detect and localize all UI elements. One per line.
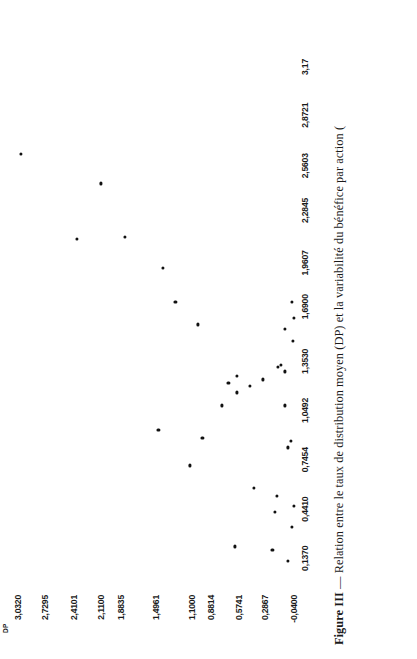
- figure-caption-text: Relation entre le taux de distribution m…: [332, 126, 346, 573]
- x-axis-tick-label: 0,4410: [300, 497, 310, 522]
- figure-caption-dash: [332, 589, 346, 592]
- scatter-point: [292, 339, 295, 342]
- figure-caption: Figure III — Relation entre le taux de d…: [332, 5, 347, 645]
- y-axis-tick-label: 2,1100: [96, 595, 106, 659]
- scatter-point: [292, 317, 295, 320]
- scatter-point: [283, 404, 286, 407]
- scatter-point: [274, 511, 277, 514]
- scatter-point: [279, 363, 282, 366]
- figure-caption-em-dash: —: [332, 576, 346, 588]
- y-axis-tick-label: 0,8814: [206, 595, 216, 659]
- scatter-point: [248, 385, 251, 388]
- y-axis-tick-label: 0,2867: [260, 595, 270, 659]
- x-axis-tick-label: 3,17: [300, 59, 310, 75]
- scatter-point: [283, 328, 286, 331]
- scatter-point: [19, 153, 22, 156]
- scatter-point: [286, 560, 289, 563]
- scatter-point: [235, 391, 238, 394]
- scatter-point: [201, 436, 204, 439]
- scatter-point: [290, 440, 293, 443]
- y-axis-tick-label: 2,4101: [69, 595, 79, 659]
- scatter-point: [291, 525, 294, 528]
- scatter-point: [261, 378, 264, 381]
- scatter-point: [227, 381, 230, 384]
- y-axis-tick-label: 0,5741: [234, 595, 244, 659]
- y-axis-tick-label: 2,7295: [40, 595, 50, 659]
- y-axis-tick-label: 1,8835: [116, 595, 126, 659]
- scatter-point: [286, 446, 289, 449]
- scatter-point: [235, 375, 238, 378]
- scatter-point: [221, 404, 224, 407]
- scatter-point: [157, 428, 160, 431]
- scatter-point: [196, 323, 199, 326]
- scatter-plot-area: [18, 67, 294, 587]
- y-axis-tick-label: -0,0400: [289, 595, 299, 659]
- scatter-point: [271, 548, 274, 551]
- x-axis-tick-label: 0,7454: [300, 447, 310, 472]
- x-axis-tick-label: 0,1370: [300, 546, 310, 571]
- y-axis-tick-label: 1,4961: [151, 595, 161, 659]
- scatter-point: [276, 365, 279, 368]
- scatter-point: [233, 545, 236, 548]
- x-axis-tick-label: 1,0492: [300, 398, 310, 423]
- figure-rotor: DP 3,03202,72952,41012,11001,88351,49611…: [0, 0, 417, 659]
- figure-caption-label: Figure III: [332, 592, 346, 645]
- scatter-point: [188, 464, 191, 467]
- scatter-point: [99, 182, 102, 185]
- y-axis-title: DP: [2, 623, 9, 633]
- scatter-point: [283, 370, 286, 373]
- x-axis-tick-label: 1,9607: [300, 250, 310, 275]
- scatter-point: [124, 236, 127, 239]
- scatter-point: [161, 266, 164, 269]
- x-axis-tick-label: 1,3530: [300, 349, 310, 374]
- x-axis-tick-label: 2,5603: [300, 153, 310, 178]
- x-axis-tick-label: 1,6900: [300, 294, 310, 319]
- scatter-point: [291, 300, 294, 303]
- scatter-point: [252, 487, 255, 490]
- y-axis-tick-label: 3,0320: [13, 595, 23, 659]
- scatter-point: [275, 495, 278, 498]
- y-axis-tick-label: 1,1000: [187, 595, 197, 659]
- scatter-point: [174, 300, 177, 303]
- x-axis-tick-label: 2,8721: [300, 103, 310, 128]
- x-axis-tick-label: 2,2845: [300, 198, 310, 223]
- scatter-point: [292, 504, 295, 507]
- scatter-point: [75, 237, 78, 240]
